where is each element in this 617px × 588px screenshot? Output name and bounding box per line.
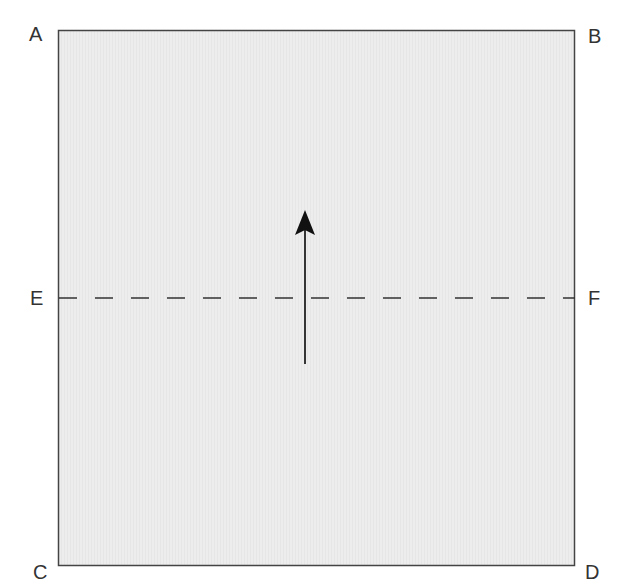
corner-label-d: D xyxy=(585,562,599,582)
edge-label-f: F xyxy=(588,288,600,308)
corner-label-a: A xyxy=(29,24,42,44)
diagram-canvas xyxy=(0,0,617,588)
corner-label-c: C xyxy=(33,562,47,582)
edge-label-e: E xyxy=(30,288,43,308)
corner-label-b: B xyxy=(588,26,601,46)
